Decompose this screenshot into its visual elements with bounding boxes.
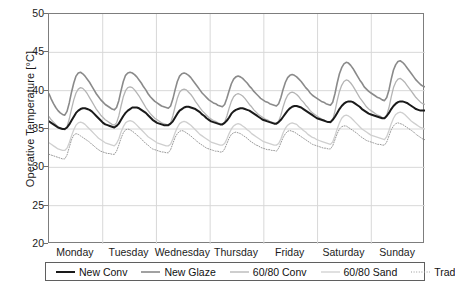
y-axis-ticks: 50454035302520 bbox=[0, 0, 44, 260]
y-tick-mark bbox=[43, 243, 48, 244]
y-tick-label: 45 bbox=[4, 46, 44, 56]
legend-label: 60/80 Conv bbox=[253, 266, 307, 278]
series-canvas bbox=[49, 14, 425, 244]
series-line-trad bbox=[49, 123, 425, 159]
legend-item-trad[interactable]: Trad bbox=[411, 266, 455, 278]
legend-item-new-conv[interactable]: New Conv bbox=[56, 266, 127, 278]
legend-label: Trad bbox=[434, 266, 455, 278]
legend-item-60-80-sand[interactable]: 60/80 Sand bbox=[321, 266, 398, 278]
x-tick-label-wednesday: Wednesday bbox=[155, 246, 210, 258]
plot-area bbox=[48, 13, 424, 243]
y-tick-label: 40 bbox=[4, 85, 44, 95]
legend-label: New Conv bbox=[79, 266, 127, 278]
series-line-new-conv bbox=[49, 101, 425, 129]
x-tick-label-friday: Friday bbox=[275, 246, 304, 258]
legend-item-new-glaze[interactable]: New Glaze bbox=[141, 266, 215, 278]
y-tick-label: 50 bbox=[4, 8, 44, 18]
y-tick-label: 25 bbox=[4, 200, 44, 210]
chart-legend: New ConvNew Glaze60/80 Conv60/80 SandTra… bbox=[45, 262, 425, 281]
y-tick-label: 35 bbox=[4, 123, 44, 133]
x-axis-labels: MondayTuesdayWednesdayThursdayFridaySatu… bbox=[48, 246, 424, 262]
x-tick-label-sunday: Sunday bbox=[379, 246, 415, 258]
legend-label: 60/80 Sand bbox=[344, 266, 398, 278]
x-tick-label-monday: Monday bbox=[56, 246, 93, 258]
y-tick-label: 20 bbox=[4, 238, 44, 248]
y-tick-label: 30 bbox=[4, 161, 44, 171]
x-tick-label-saturday: Saturday bbox=[322, 246, 364, 258]
x-tick-label-thursday: Thursday bbox=[214, 246, 258, 258]
legend-label: New Glaze bbox=[164, 266, 215, 278]
series-line-60-80-sand bbox=[49, 112, 425, 150]
series-line-new-glaze bbox=[49, 61, 425, 115]
legend-item-60-80-conv[interactable]: 60/80 Conv bbox=[230, 266, 307, 278]
x-tick-label-tuesday: Tuesday bbox=[109, 246, 149, 258]
